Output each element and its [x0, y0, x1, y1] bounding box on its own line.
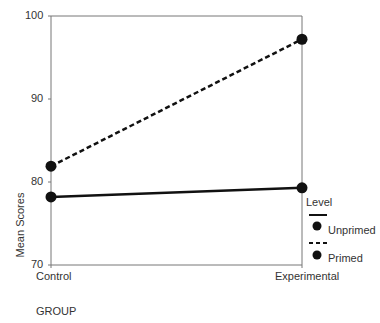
- data-point-primed: [297, 34, 308, 45]
- y-tick-70: 70: [31, 258, 43, 270]
- data-point-unprimed: [297, 182, 308, 193]
- legend-label-primed: Primed: [328, 252, 363, 264]
- legend-title: Level: [306, 196, 332, 208]
- y-tick-90: 90: [31, 92, 43, 104]
- data-point-unprimed: [46, 191, 57, 202]
- x-tick-control: Control: [36, 270, 71, 282]
- y-axis-label: Mean Scores: [14, 190, 26, 260]
- x-axis-label: GROUP: [36, 305, 76, 317]
- x-tick-experimental: Experimental: [275, 270, 339, 282]
- data-point-primed: [46, 161, 57, 172]
- legend-unprimed-marker: [313, 222, 322, 231]
- legend-label-unprimed: Unprimed: [328, 224, 376, 236]
- legend-primed-marker: [313, 251, 322, 260]
- series-line-primed: [51, 39, 302, 166]
- y-tick-80: 80: [31, 175, 43, 187]
- series-line-unprimed: [51, 188, 302, 197]
- y-tick-100: 100: [25, 9, 43, 21]
